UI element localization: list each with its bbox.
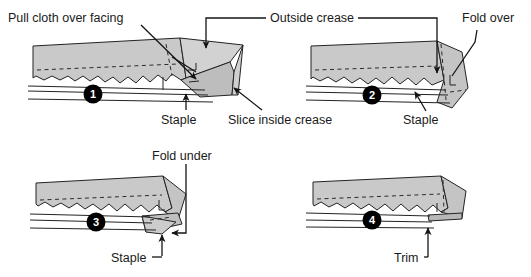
step-badge-1-number: 1	[90, 88, 96, 100]
panel-3: 3 Fold under Staple	[30, 149, 212, 265]
panel-2: 2 Outside crease Fold over Staple	[206, 11, 514, 127]
staple-label-2: Staple	[403, 113, 438, 127]
step-badge-2-number: 2	[369, 89, 375, 101]
fold-under-label: Fold under	[152, 149, 212, 163]
cloth-body-2	[311, 41, 444, 85]
step-badge-3-number: 3	[93, 216, 99, 228]
instruction-diagram: 1 Pull cloth over facing Staple Slice in…	[0, 0, 531, 277]
frame-rail-top-1	[28, 86, 205, 90]
slice-leader	[234, 88, 262, 110]
outside-crease-label: Outside crease	[270, 11, 354, 25]
cloth-body-4	[313, 176, 448, 212]
staple-label-1: Staple	[161, 113, 196, 127]
trim-edge-4	[428, 213, 462, 221]
trim-label: Trim	[394, 251, 419, 265]
fold-over-label: Fold over	[462, 11, 514, 25]
step-badge-4-number: 4	[369, 214, 376, 226]
staple-label-3: Staple	[111, 251, 146, 265]
frame-rail-mid-1	[28, 91, 208, 95]
cloth-body-1	[33, 38, 186, 83]
panel-4: 4 Trim	[306, 176, 466, 265]
frame-rail-bot-1	[28, 99, 213, 102]
cloth-body-3	[36, 176, 172, 212]
panel-1: 1 Pull cloth over facing Staple Slice in…	[8, 11, 332, 127]
pull-cloth-over-facing-label: Pull cloth over facing	[8, 11, 123, 25]
slice-inside-crease-label: Slice inside crease	[228, 113, 332, 127]
